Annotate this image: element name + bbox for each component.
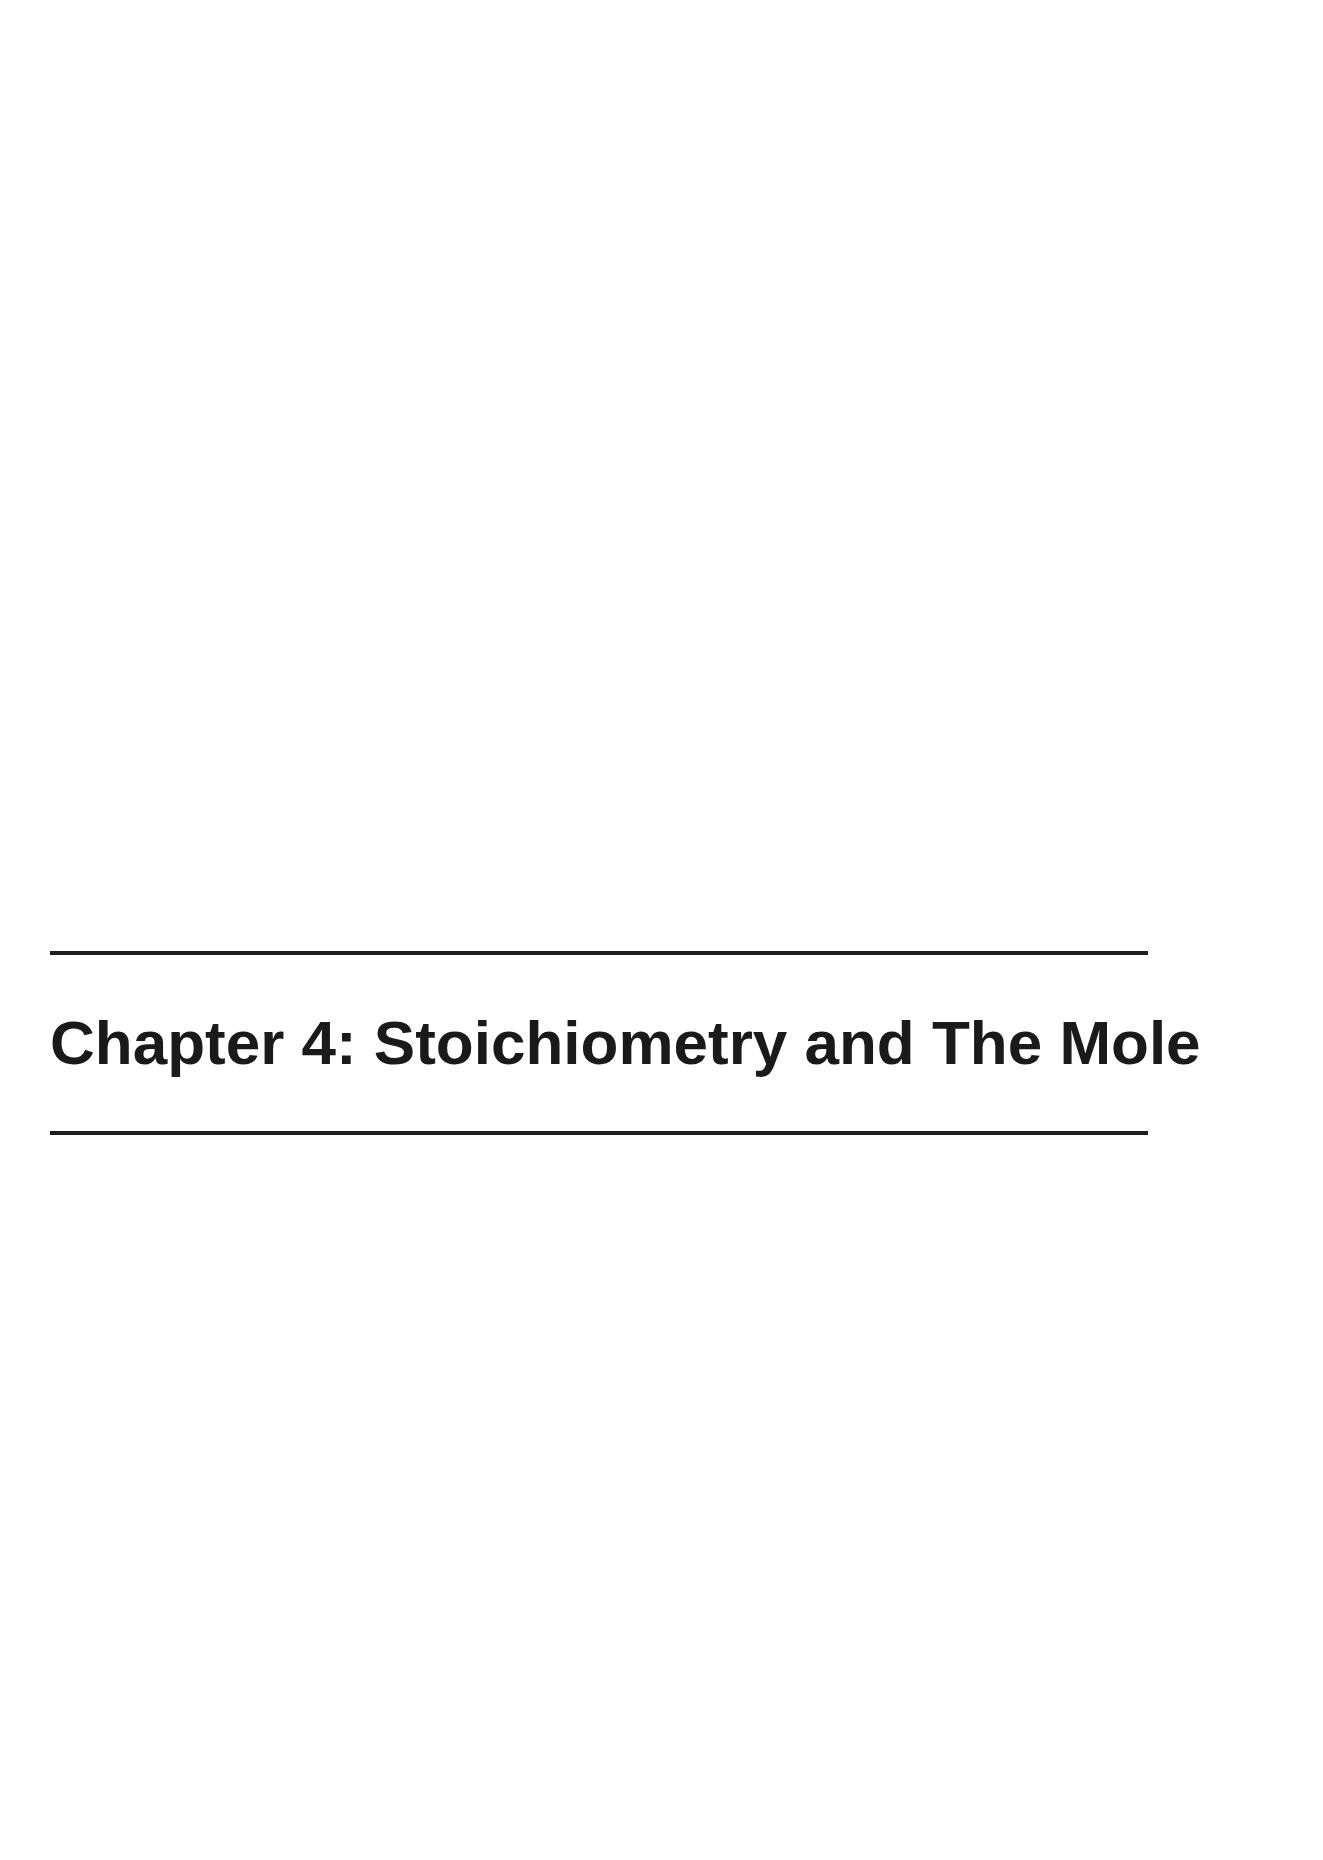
bottom-divider-rule	[50, 1131, 1148, 1135]
top-divider-rule	[50, 951, 1148, 955]
chapter-title: Chapter 4: Stoichiometry and The Mole	[50, 1005, 1148, 1081]
